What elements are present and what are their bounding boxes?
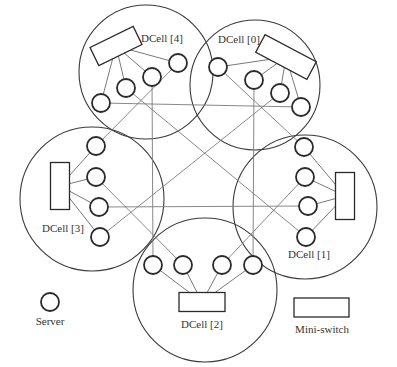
legend-switch-label: Mini-switch xyxy=(295,323,349,335)
dcell1-server-2 xyxy=(299,197,317,215)
inter-link xyxy=(101,103,301,107)
dcell2-label: DCell [2] xyxy=(181,318,223,330)
dcell4-server-0 xyxy=(92,94,110,112)
dcell1-mini-switch xyxy=(336,173,355,220)
dcell1-label: DCell [1] xyxy=(288,248,330,260)
dcell0-label: DCell [0] xyxy=(218,33,260,45)
dcell1-server-1 xyxy=(296,168,314,186)
dcell1-server-0 xyxy=(295,138,313,156)
dcell3-server-2 xyxy=(90,198,108,216)
dcell3-server-0 xyxy=(87,137,105,155)
dcell4-server-1 xyxy=(117,79,135,97)
cell-labels: DCell [0]DCell [1]DCell [2]DCell [3]DCel… xyxy=(42,32,330,330)
inter-link xyxy=(152,77,153,265)
dcell0-server-2 xyxy=(271,84,289,102)
dcell2-server-0 xyxy=(144,256,162,274)
dcell2-boundary xyxy=(133,218,277,362)
dcell4-mini-switch xyxy=(90,26,142,65)
dcell3-label: DCell [3] xyxy=(42,222,84,234)
inter-link xyxy=(96,177,183,265)
dcell1-server-3 xyxy=(297,228,315,246)
dcell2-server-2 xyxy=(213,256,231,274)
dcell0-server-1 xyxy=(245,71,263,89)
legend-server-label: Server xyxy=(36,315,65,327)
servers xyxy=(87,54,317,274)
dcell4-server-2 xyxy=(143,68,161,86)
dcell2-server-3 xyxy=(244,256,262,274)
dcell4-server-3 xyxy=(169,54,187,72)
dcell3-server-3 xyxy=(91,228,109,246)
dcell3-mini-switch xyxy=(51,163,70,210)
dcell2-server-1 xyxy=(174,256,192,274)
dcell0-server-0 xyxy=(209,58,227,76)
legend-switch-icon xyxy=(294,298,349,317)
dcell2-mini-switch xyxy=(179,293,225,312)
dcell4-label: DCell [4] xyxy=(141,32,183,44)
dcell-diagram: DCell [0]DCell [1]DCell [2]DCell [3]DCel… xyxy=(0,0,397,367)
dcell0-server-3 xyxy=(292,98,310,116)
legend-server-icon xyxy=(41,293,59,311)
dcell3-server-1 xyxy=(87,168,105,186)
